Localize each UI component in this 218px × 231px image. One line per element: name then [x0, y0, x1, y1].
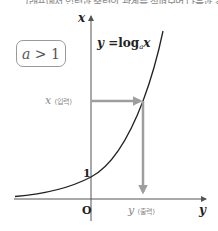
vertical-axis-label: x	[78, 12, 85, 24]
output-label: y (출력)	[128, 205, 155, 216]
equation-lhs: y	[97, 36, 104, 50]
intercept-label: 1	[83, 168, 91, 179]
horizontal-axis-label: y	[199, 204, 206, 216]
output-var: y	[128, 204, 134, 217]
input-text: (입력)	[54, 98, 71, 106]
output-text: (출력)	[137, 208, 154, 216]
equation-equals: =	[104, 36, 118, 50]
graph-canvas	[0, 0, 218, 231]
condition-value: 1	[51, 46, 60, 62]
equation-arg: x	[143, 36, 150, 50]
origin-label: O	[82, 205, 92, 216]
condition-var: a	[22, 46, 30, 62]
input-label: x (입력)	[45, 95, 72, 106]
condition-box: a > 1	[16, 40, 66, 67]
equation-func: log	[118, 36, 139, 50]
equation-label: y =logax	[97, 37, 151, 51]
input-var: x	[45, 94, 51, 107]
condition-op: >	[30, 46, 51, 62]
